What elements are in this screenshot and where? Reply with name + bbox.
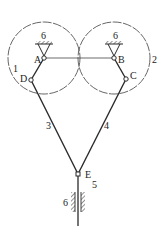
label-link-2: 2	[152, 54, 157, 65]
label-ground-a: 6	[41, 30, 46, 41]
label-link-4: 4	[104, 120, 109, 131]
label-joint-a: A	[34, 54, 42, 65]
label-joint-b: B	[118, 54, 125, 65]
label-joint-c: C	[130, 70, 137, 81]
joint-d	[29, 78, 33, 82]
label-link-5: 5	[92, 179, 97, 190]
joint-b	[112, 56, 116, 60]
label-joint-d: D	[20, 73, 27, 84]
label-ground-b: 6	[113, 30, 118, 41]
linkage-diagram: 6 6 A B D C 1 2 3 4 E 5 6	[0, 0, 167, 240]
joint-c	[124, 77, 128, 81]
joint-a	[42, 56, 46, 60]
link-4	[78, 79, 126, 174]
label-link-1: 1	[13, 63, 18, 74]
link-3	[31, 80, 78, 174]
joint-e	[76, 172, 80, 176]
label-joint-e: E	[85, 169, 91, 180]
label-ground-slider: 6	[63, 197, 68, 208]
label-link-3: 3	[46, 120, 51, 131]
